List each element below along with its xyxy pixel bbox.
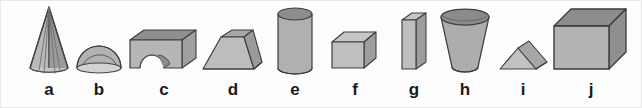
shape-label-b: b xyxy=(68,80,130,99)
arch-block-solid-icon xyxy=(124,4,204,78)
shape-label-h: h xyxy=(432,80,498,99)
triangular-prism-solid-icon xyxy=(492,4,554,78)
geometric-solids-figure: a b xyxy=(0,0,642,108)
shape-label-i: i xyxy=(492,80,554,99)
shape-item-f: f xyxy=(322,4,388,100)
shape-item-b: b xyxy=(68,4,130,100)
shape-label-d: d xyxy=(196,80,270,99)
shape-label-c: c xyxy=(124,80,204,99)
shape-item-h: h xyxy=(432,4,498,100)
hemisphere-solid-icon xyxy=(68,4,130,78)
shape-item-c: c xyxy=(124,4,204,100)
cylinder-solid-icon xyxy=(264,4,326,78)
pyramid-frustum-solid-icon xyxy=(196,4,270,78)
shape-label-e: e xyxy=(264,80,326,99)
cube-solid-icon xyxy=(322,4,388,78)
cone-frustum-solid-icon xyxy=(432,4,498,78)
shape-item-j: j xyxy=(546,4,636,100)
shape-item-d: d xyxy=(196,4,270,100)
shape-label-j: j xyxy=(546,80,636,99)
shape-label-f: f xyxy=(322,80,388,99)
cube-large-solid-icon xyxy=(546,4,636,78)
shape-item-i: i xyxy=(492,4,554,100)
shape-item-e: e xyxy=(264,4,326,100)
